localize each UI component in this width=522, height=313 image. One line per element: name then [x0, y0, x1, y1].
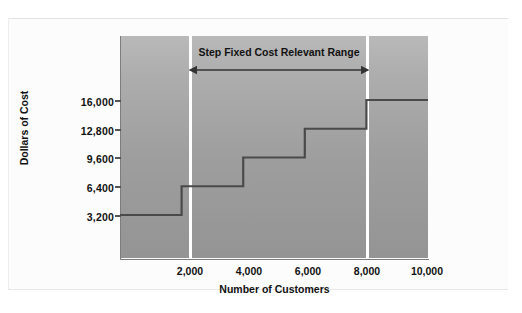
y-tick-label-16000: 16,000: [54, 96, 114, 108]
x-tick-label-10000: 10,000: [397, 265, 457, 277]
y-tick-label-9600: 9,600: [54, 153, 114, 165]
y-tick-mark-16000: [115, 100, 121, 102]
y-tick-mark-3200: [115, 215, 121, 217]
x-axis-title: Number of Customers: [121, 283, 428, 295]
y-tick-label-12800: 12,800: [54, 125, 114, 137]
y-tick-mark-6400: [115, 186, 121, 188]
y-tick-mark-12800: [115, 129, 121, 131]
y-tick-label-3200: 3,200: [54, 211, 114, 223]
x-tick-label-8000: 8,000: [337, 265, 397, 277]
relevant-range-annotation-label: Step Fixed Cost Relevant Range: [189, 46, 369, 58]
x-tick-label-4000: 4,000: [219, 265, 279, 277]
chart-page: Dollars of Cost 16,000 12,800 9,600 6,40…: [0, 0, 522, 313]
x-axis-tick-labels: 2,000 4,000 6,000 8,000 10,000: [0, 265, 522, 281]
y-axis-line: [120, 36, 121, 260]
relevant-range-double-arrow-icon: [189, 62, 369, 74]
x-tick-label-6000: 6,000: [278, 265, 338, 277]
y-tick-mark-9600: [115, 157, 121, 159]
x-tick-label-2000: 2,000: [160, 265, 220, 277]
x-axis-line: [120, 259, 429, 260]
y-axis-title: Dollars of Cost: [18, 68, 30, 188]
y-tick-label-6400: 6,400: [54, 182, 114, 194]
